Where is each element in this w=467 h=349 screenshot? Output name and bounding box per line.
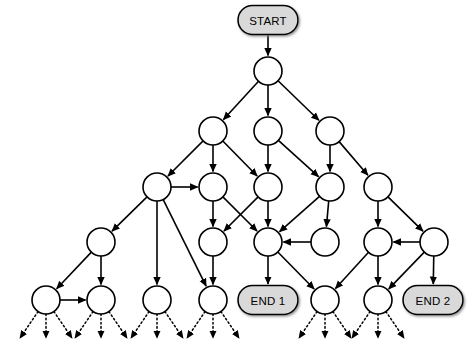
frontier-edge: [386, 312, 404, 338]
node-circle[interactable]: [199, 117, 227, 145]
frontier-edge: [352, 312, 370, 338]
terminal-node-end2[interactable]: END 2: [403, 286, 463, 315]
edge-n10-to-n20: [168, 141, 203, 176]
edge-n20-to-n30: [112, 197, 147, 231]
node-circle[interactable]: [254, 228, 282, 256]
edge-n23-to-n33: [326, 201, 328, 227]
graph-node[interactable]: [87, 228, 115, 256]
frontier-edge: [20, 312, 38, 338]
graph-node[interactable]: [316, 173, 344, 201]
terminal-label: END 2: [416, 295, 451, 307]
node-circle[interactable]: [316, 173, 344, 201]
edge-n0-to-n10: [223, 81, 258, 119]
node-circle[interactable]: [143, 173, 171, 201]
graph-node[interactable]: [364, 286, 392, 314]
frontier-edge: [54, 312, 72, 338]
edge-n23-to-n32: [280, 196, 320, 231]
edge-n10-to-n22: [223, 141, 257, 176]
node-circle[interactable]: [254, 57, 282, 85]
frontier-edge: [75, 312, 93, 338]
graph-node[interactable]: [254, 117, 282, 145]
frontier-edge-layer: [20, 312, 404, 338]
graph-node[interactable]: [254, 228, 282, 256]
edge-n12-to-n24: [339, 142, 368, 176]
edge-n0-to-n12: [278, 81, 319, 120]
node-circle[interactable]: [32, 286, 60, 314]
frontier-edge: [299, 312, 317, 338]
diagram-canvas: STARTEND 1END 2: [0, 0, 467, 349]
graph-node[interactable]: [199, 117, 227, 145]
graph-node[interactable]: [87, 286, 115, 314]
node-circle[interactable]: [199, 286, 227, 314]
frontier-edge: [165, 312, 183, 338]
edge-layer: [57, 35, 434, 301]
node-circle[interactable]: [143, 286, 171, 314]
frontier-edge: [187, 312, 205, 338]
graph-node[interactable]: [364, 228, 392, 256]
terminal-node-start[interactable]: START: [238, 6, 298, 35]
frontier-edge: [333, 312, 351, 338]
node-circle[interactable]: [316, 117, 344, 145]
graph-node[interactable]: [143, 173, 171, 201]
node-circle[interactable]: [311, 228, 339, 256]
edge-n32-to-n44: [278, 252, 314, 289]
graph-node[interactable]: [199, 228, 227, 256]
graph-node[interactable]: [311, 286, 339, 314]
terminal-label: END 1: [251, 295, 286, 307]
frontier-edge: [131, 312, 149, 338]
graph-node[interactable]: [311, 228, 339, 256]
edge-n30-to-n40: [57, 252, 92, 289]
node-circle[interactable]: [254, 173, 282, 201]
node-circle[interactable]: [364, 286, 392, 314]
node-circle[interactable]: [311, 286, 339, 314]
edge-n24-to-n35: [388, 197, 423, 231]
graph-node[interactable]: [32, 286, 60, 314]
node-circle[interactable]: [420, 228, 448, 256]
frontier-edge: [221, 312, 239, 338]
edge-n11-to-n23: [278, 140, 318, 176]
node-circle[interactable]: [364, 228, 392, 256]
node-circle[interactable]: [87, 228, 115, 256]
graph-node[interactable]: [316, 117, 344, 145]
graph-node[interactable]: [364, 173, 392, 201]
terminal-layer: STARTEND 1END 2: [238, 6, 463, 315]
graph-node[interactable]: [199, 286, 227, 314]
node-circle[interactable]: [87, 286, 115, 314]
frontier-edge: [109, 312, 127, 338]
node-circle[interactable]: [199, 173, 227, 201]
graph-node[interactable]: [254, 57, 282, 85]
edge-n35-to-n45: [389, 252, 425, 289]
node-circle[interactable]: [254, 117, 282, 145]
graph-node[interactable]: [143, 286, 171, 314]
graph-node[interactable]: [420, 228, 448, 256]
node-circle[interactable]: [364, 173, 392, 201]
terminal-label: START: [249, 15, 287, 27]
terminal-node-end1[interactable]: END 1: [238, 286, 298, 315]
graph-node[interactable]: [254, 173, 282, 201]
search-tree-diagram: STARTEND 1END 2: [0, 0, 467, 349]
node-circle[interactable]: [199, 228, 227, 256]
edge-n34-to-n44: [335, 252, 368, 288]
graph-node[interactable]: [199, 173, 227, 201]
node-layer: [32, 57, 448, 314]
